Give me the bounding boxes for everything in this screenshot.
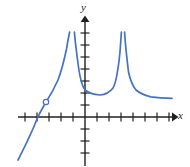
plot-canvas — [0, 0, 190, 167]
curve-left-branch — [18, 32, 70, 160]
axes-group — [18, 16, 179, 167]
curve-group — [18, 32, 172, 160]
rational-function-figure: y x — [0, 0, 190, 167]
curve-right-branch — [125, 32, 172, 98]
curve-middle-branch — [74, 32, 121, 95]
hole-open-circle — [43, 99, 48, 104]
y-axis-label: y — [81, 2, 86, 13]
x-axis-label: x — [178, 110, 183, 121]
y-axis-arrowhead — [81, 16, 90, 23]
